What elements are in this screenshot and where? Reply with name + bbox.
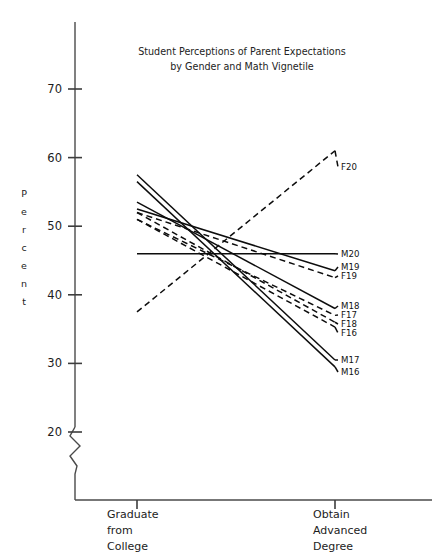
y-tick-label-40: 40 xyxy=(47,288,62,302)
line-chart: Student Perceptions of Parent Expectatio… xyxy=(0,0,447,560)
series-label-m16: M16 xyxy=(341,367,359,377)
series-label-f16: F16 xyxy=(341,328,357,338)
y-tick-label-50: 50 xyxy=(47,219,62,233)
y-tick-label-60: 60 xyxy=(47,151,62,165)
y-axis-title-letter: r xyxy=(22,224,26,235)
y-axis-title-letter: t xyxy=(22,296,26,307)
y-tick-label-70: 70 xyxy=(47,82,62,96)
chart-background xyxy=(0,0,447,560)
series-label-m17: M17 xyxy=(341,355,359,365)
chart-title-line2: by Gender and Math Vignetile xyxy=(170,61,314,72)
y-axis-title-letter: P xyxy=(21,188,27,199)
series-label-f20: F20 xyxy=(341,162,357,172)
series-label-m20: M20 xyxy=(341,249,359,259)
chart-title-line1: Student Perceptions of Parent Expectatio… xyxy=(138,46,346,57)
y-tick-label-20: 20 xyxy=(47,425,62,439)
chart-figure: Student Perceptions of Parent Expectatio… xyxy=(0,0,447,560)
x-category-label-graduate: from xyxy=(107,524,133,537)
series-label-f19: F19 xyxy=(341,271,357,281)
x-category-label-graduate: College xyxy=(107,540,148,553)
y-axis-title-letter: c xyxy=(21,242,26,253)
x-category-label-advanced: Degree xyxy=(313,540,353,553)
y-axis-title-letter: e xyxy=(21,260,27,271)
x-category-label-graduate: Graduate xyxy=(107,508,159,521)
y-axis-title-letter: n xyxy=(21,278,27,289)
y-axis-title-letter: e xyxy=(21,206,27,217)
x-category-label-advanced: Obtain xyxy=(313,508,350,521)
y-tick-label-30: 30 xyxy=(47,356,62,370)
x-category-label-advanced: Advanced xyxy=(313,524,367,537)
